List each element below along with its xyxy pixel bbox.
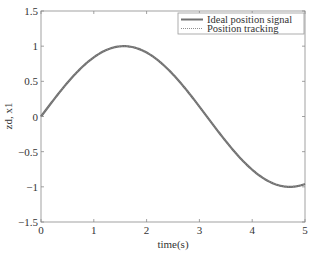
x-tick-label: 2 <box>144 224 150 236</box>
axes-box <box>41 11 305 222</box>
chart: 012345−1.5−1−0.500.511.5 time(s) zd, x1 … <box>0 0 309 257</box>
y-axis-label: zd, x1 <box>2 103 14 130</box>
y-tick-label: −0.5 <box>18 146 38 158</box>
x-tick-label: 4 <box>249 224 255 236</box>
y-tick-label: −1 <box>26 181 38 193</box>
axis-ticks: 012345−1.5−1−0.500.511.5 <box>18 5 308 236</box>
x-axis-label: time(s) <box>157 238 188 251</box>
y-tick-label: 1.5 <box>24 5 38 17</box>
y-tick-label: −1.5 <box>18 216 38 228</box>
x-tick-label: 3 <box>197 224 203 236</box>
y-tick-label: 0 <box>33 111 39 123</box>
x-tick-label: 1 <box>91 224 97 236</box>
series-ideal-position <box>41 46 305 187</box>
plot-area <box>41 11 305 222</box>
line-chart-svg: 012345−1.5−1−0.500.511.5 time(s) zd, x1 … <box>0 0 309 257</box>
x-tick-label: 0 <box>38 224 44 236</box>
x-tick-label: 5 <box>302 224 308 236</box>
legend: Ideal position signal Position tracking <box>178 13 304 34</box>
series-layer <box>41 46 305 187</box>
y-tick-label: 0.5 <box>24 75 38 87</box>
legend-item-position-tracking: Position tracking <box>207 23 279 34</box>
y-tick-label: 1 <box>33 40 39 52</box>
